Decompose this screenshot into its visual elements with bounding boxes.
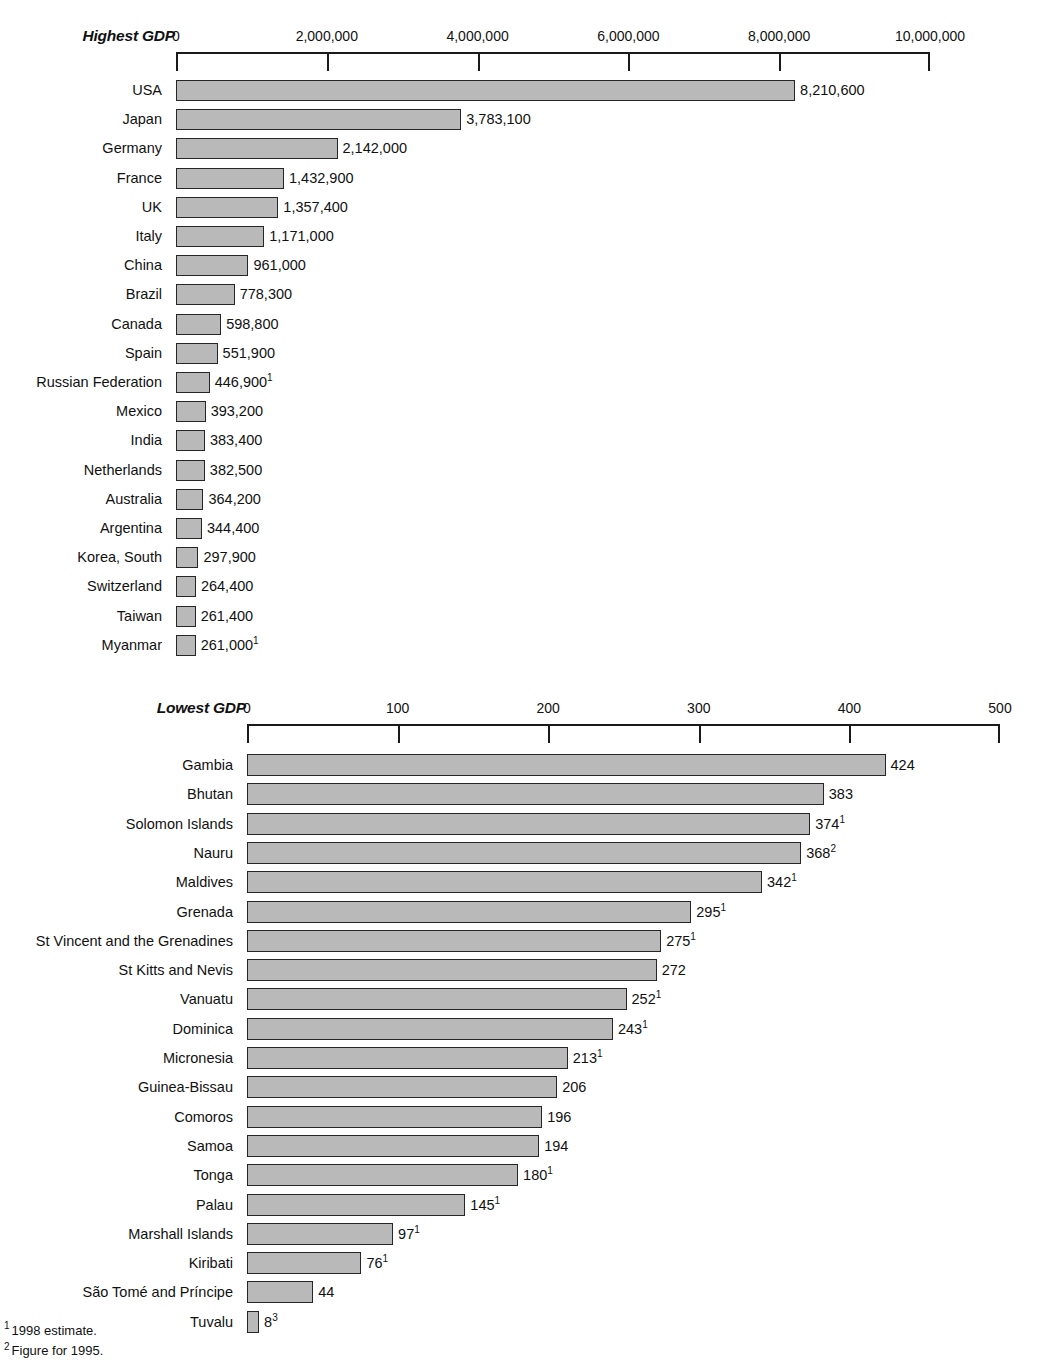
bar-value-label: 364,200 [203,489,260,510]
axis-tick-label: 2,000,000 [296,28,358,44]
bar-row: Comoros196 [0,1106,1042,1128]
bar-row: St Kitts and Nevis272 [0,959,1042,981]
bar-rect [176,518,202,539]
bar-row: Tuvalu83 [0,1311,1042,1333]
bar-category-label: Japan [122,109,170,130]
bar-rect [247,842,801,864]
axis-tick-mark [327,54,329,71]
bar-category-label: Samoa [187,1135,241,1157]
bar-row: France1,432,900 [0,168,1042,189]
bar-value-footnote-marker: 1 [547,1165,553,1176]
bar-category-label: Guinea-Bissau [138,1076,241,1098]
bar-category-label: Australia [106,489,170,510]
bar-row: Myanmar261,0001 [0,635,1042,656]
bar-value-footnote-marker: 1 [839,814,845,825]
bar-category-label: USA [132,80,170,101]
lowest-gdp-axis: Lowest GDP 0100200300400500 [0,700,1042,746]
bar-value-label: 264,400 [196,576,253,597]
bar-rect [247,959,657,981]
bar-row: India383,400 [0,430,1042,451]
bar-rect [176,460,205,481]
bar-category-label: Tonga [193,1164,241,1186]
bar-value-footnote-marker: 1 [383,1253,389,1264]
bar-value-label: 446,9001 [210,372,273,393]
bar-rect [247,1311,259,1333]
axis-tick-mark [779,54,781,71]
bar-rect [247,1281,313,1303]
bar-category-label: Grenada [177,901,241,923]
bar-rect [247,901,691,923]
bar-row: Japan3,783,100 [0,109,1042,130]
bar-value-footnote-marker: 1 [656,990,662,1001]
bar-row: St Vincent and the Grenadines2751 [0,930,1042,952]
bar-value-footnote-marker: 1 [495,1195,501,1206]
bar-rect [247,1018,613,1040]
bar-category-label: São Tomé and Príncipe [83,1281,241,1303]
bar-value-label: 3,783,100 [461,109,531,130]
axis-tick-mark [176,54,178,71]
axis-tick-label: 400 [838,700,861,716]
bar-value-label: 778,300 [235,284,292,305]
bar-rect [247,1252,361,1274]
bar-value-label: 383 [824,783,853,805]
bar-row: Canada598,800 [0,314,1042,335]
bar-row: Switzerland264,400 [0,576,1042,597]
bar-category-label: Nauru [194,842,242,864]
bar-row: Solomon Islands3741 [0,813,1042,835]
bar-row: Maldives3421 [0,871,1042,893]
bar-value-label: 961,000 [248,255,305,276]
bar-category-label: Spain [125,343,170,364]
bar-value-footnote-marker: 1 [597,1048,603,1059]
bar-category-label: India [131,430,170,451]
bar-rect [247,783,824,805]
bar-category-label: Argentina [100,518,170,539]
highest-gdp-axis: Highest GDP 02,000,0004,000,0006,000,000… [0,28,1042,74]
bar-row: Mexico393,200 [0,401,1042,422]
bar-rect [176,576,196,597]
axis-tick-mark [628,54,630,71]
bar-row: Marshall Islands971 [0,1223,1042,1245]
bar-value-label: 761 [361,1252,388,1274]
bar-category-label: St Kitts and Nevis [119,959,241,981]
bar-value-label: 1451 [465,1194,500,1216]
bar-value-label: 1,432,900 [284,168,354,189]
footnote-text: Figure for 1995. [12,1343,104,1358]
bar-value-label: 206 [557,1076,586,1098]
bar-rect [176,284,235,305]
footnote-text: 1998 estimate. [12,1323,97,1338]
footnote-marker: 2 [4,1341,10,1352]
bar-value-label: 393,200 [206,401,263,422]
bar-rect [176,197,278,218]
bar-value-label: 551,900 [218,343,275,364]
axis-tick-mark [928,54,930,71]
bar-row: Gambia424 [0,754,1042,776]
bar-rect [176,138,338,159]
axis-tick-mark [398,726,400,743]
highest-gdp-chart: Highest GDP 02,000,0004,000,0006,000,000… [0,28,1042,664]
bar-category-label: Mexico [116,401,170,422]
bar-rect [176,109,461,130]
bar-row: Vanuatu2521 [0,988,1042,1010]
bar-rect [176,547,198,568]
bar-rect [247,1076,557,1098]
axis-line [247,724,1000,726]
bar-value-footnote-marker: 1 [253,635,259,646]
bar-rect [247,988,627,1010]
bar-rect [176,606,196,627]
bar-value-footnote-marker: 1 [720,902,726,913]
bar-category-label: Germany [102,138,170,159]
bar-rect [247,930,661,952]
bar-category-label: Kiribati [189,1252,241,1274]
axis-tick-mark [478,54,480,71]
bar-row: Argentina344,400 [0,518,1042,539]
footnotes: 11998 estimate.2Figure for 1995. [4,1321,103,1361]
lowest-gdp-bars: Gambia424Bhutan383Solomon Islands3741Nau… [0,746,1042,1340]
axis-tick-mark [247,726,249,743]
axis-line [176,52,930,54]
bar-rect [176,401,206,422]
bar-rect [247,1106,542,1128]
bar-row: Netherlands382,500 [0,460,1042,481]
bar-rect [176,489,203,510]
bar-row: China961,000 [0,255,1042,276]
gdp-bar-charts-page: Highest GDP 02,000,0004,000,0006,000,000… [0,0,1042,1365]
